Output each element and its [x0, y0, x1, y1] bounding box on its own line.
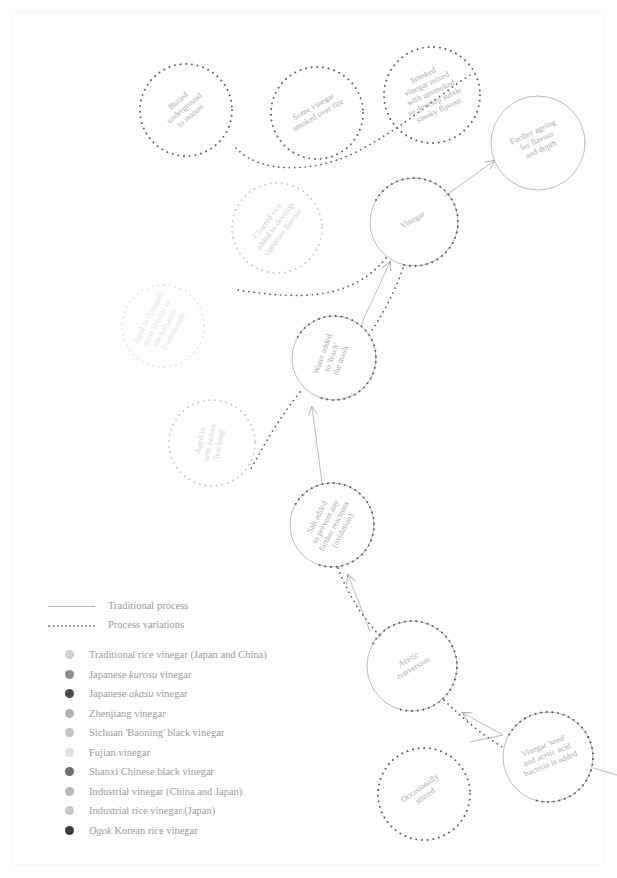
legend-swatch-solid-line — [48, 601, 95, 611]
legend-dot-zhenjiang-vinegar — [65, 709, 74, 718]
legend-dot-traditional-rice-vinegar — [65, 650, 74, 659]
legend-dot-industrial-vinegar — [65, 787, 74, 796]
legend-item-label-zhenjiang-vinegar: Zhenjiang vinegar — [89, 708, 166, 719]
legend-item-japanese-kurosu-vinegar: Japanese kurosu vinegar — [48, 665, 378, 685]
connector-salt-to-water — [312, 407, 322, 483]
legend-item-traditional-rice-vinegar: Traditional rice vinegar (Japan and Chin… — [48, 645, 378, 665]
process-node-vinegar: Vinegar — [370, 178, 458, 266]
legend-dot-industrial-rice-vinegar-jp — [65, 806, 74, 815]
legend-item-ogok-korean-rice-vinegar: Ogok Korean rice vinegar — [48, 821, 378, 841]
process-node-charred-rice: Charred riceadded to developsignature fl… — [232, 183, 322, 273]
legend-dot-shanxi-chinese-black — [65, 767, 74, 776]
legend-item-industrial-vinegar: Industrial vinegar (China and Japan) — [48, 782, 378, 802]
node-label-water-added: Water addedto 'leach'the mash — [311, 333, 352, 382]
legend-swatch-dotted-line — [48, 620, 95, 630]
node-label-aged-dynamic: Aged in dynamicstyle similar tothe balsa… — [131, 290, 192, 359]
legend-item-label-shanxi-chinese-black: Shanxi Chinese black vinegar — [89, 766, 214, 777]
legend-item-zhenjiang-vinegar: Zhenjiang vinegar — [48, 704, 378, 724]
node-label-occasionally-stirred: Occasionallystirred — [399, 771, 446, 812]
node-label-acetic-conversion: Aceticconversion — [390, 647, 431, 682]
process-node-vinegar-seed: Vinegar 'seed'and acetic acidbacteria is… — [503, 712, 593, 802]
process-node-water-added: Water addedto 'leach'the mash — [292, 316, 376, 400]
legend-item-shanxi-chinese-black: Shanxi Chinese black vinegar — [48, 762, 378, 782]
legend-line-styles: Traditional process Process variations — [48, 596, 378, 634]
process-node-buried-underground: Buriedundergroundto mature — [140, 64, 232, 156]
diagram-page: Buriedundergroundto matureSome vinegarsm… — [0, 0, 617, 878]
node-label-aged-urns: Aged inurns before'leaching' — [192, 421, 228, 464]
connector-water-to-vinegar — [360, 262, 390, 327]
legend-dot-ogok-korean-rice-vinegar — [65, 826, 74, 835]
legend-item-label-sichuan-baoning-vinegar: Sichuan 'Baoning' black vinegar — [89, 727, 224, 738]
connector-seed-to-acetic — [463, 713, 503, 735]
process-node-salt-added: Salt addedto prevent anyfurther reaction… — [290, 483, 374, 567]
legend-item-label-industrial-vinegar: Industrial vinegar (China and Japan) — [89, 786, 242, 797]
legend-row-traditional-process: Traditional process — [48, 596, 378, 615]
legend-label-traditional-process: Traditional process — [108, 600, 188, 611]
node-label-smoked-vinegar-mixed: Smokedvinegar mixedwith unsmokedto devel… — [395, 59, 468, 126]
legend-row-process-variations: Process variations — [48, 615, 378, 634]
variation-path-water-down — [250, 392, 300, 470]
legend-dot-japanese-kurosu-vinegar — [65, 670, 74, 679]
process-node-acetic-conversion: Aceticconversion — [367, 621, 457, 711]
node-label-some-vinegar-smoked: Some vinegarsmoked over fire — [286, 88, 345, 133]
legend-item-label-ogok-korean-rice-vinegar: Ogok Korean rice vinegar — [89, 825, 198, 836]
process-node-occasionally-stirred: Occasionallystirred — [378, 748, 470, 840]
node-label-vinegar: Vinegar — [399, 209, 427, 230]
legend: Traditional process Process variations T… — [48, 596, 378, 840]
legend-item-label-fujian-vinegar: Fujian vinegar — [89, 747, 150, 758]
process-node-further-ageing: Further ageingfor flavourand depth — [491, 96, 585, 190]
process-node-some-vinegar-smoked: Some vinegarsmoked over fire — [271, 67, 363, 159]
connector-vinegar-to-ageing — [445, 161, 494, 196]
variation-path-vinegar-down — [238, 258, 386, 295]
connector-seed-inflow-left — [470, 735, 503, 742]
legend-item-label-japanese-akasu-vinegar: Japanese akasu vinegar — [89, 688, 188, 699]
legend-dot-fujian-vinegar — [65, 748, 74, 757]
node-label-further-ageing: Further ageingfor flavourand depth — [509, 118, 566, 164]
process-node-aged-urns: Aged inurns before'leaching' — [169, 400, 255, 486]
legend-item-sichuan-baoning-vinegar: Sichuan 'Baoning' black vinegar — [48, 723, 378, 743]
node-label-vinegar-seed: Vinegar 'seed'and acetic acidbacteria is… — [515, 731, 578, 778]
connector-seed-inflow-right — [593, 768, 617, 775]
legend-item-label-japanese-kurosu-vinegar: Japanese kurosu vinegar — [89, 669, 191, 680]
node-label-buried-underground: Buriedundergroundto mature — [159, 84, 210, 133]
process-node-aged-dynamic: Aged in dynamicstyle similar tothe balsa… — [122, 285, 204, 367]
variation-path-water-to-vinegar — [372, 266, 404, 330]
legend-dot-sichuan-baoning-vinegar — [65, 728, 74, 737]
legend-item-label-traditional-rice-vinegar: Traditional rice vinegar (Japan and Chin… — [89, 649, 267, 660]
legend-item-label-industrial-rice-vinegar-jp: Industrial rice vinegar (Japan) — [89, 805, 215, 816]
legend-item-japanese-akasu-vinegar: Japanese akasu vinegar — [48, 684, 378, 704]
node-label-charred-rice: Charred riceadded to developsignature fl… — [246, 195, 303, 258]
legend-label-process-variations: Process variations — [108, 619, 184, 630]
node-label-salt-added: Salt addedto prevent anyfurther reaction… — [300, 490, 359, 557]
legend-dot-japanese-akasu-vinegar — [65, 689, 74, 698]
process-node-smoked-vinegar-mixed: Smokedvinegar mixedwith unsmokedto devel… — [384, 47, 480, 143]
legend-item-industrial-rice-vinegar-jp: Industrial rice vinegar (Japan) — [48, 801, 378, 821]
legend-vinegar-types: Traditional rice vinegar (Japan and Chin… — [48, 645, 378, 840]
legend-item-fujian-vinegar: Fujian vinegar — [48, 743, 378, 763]
